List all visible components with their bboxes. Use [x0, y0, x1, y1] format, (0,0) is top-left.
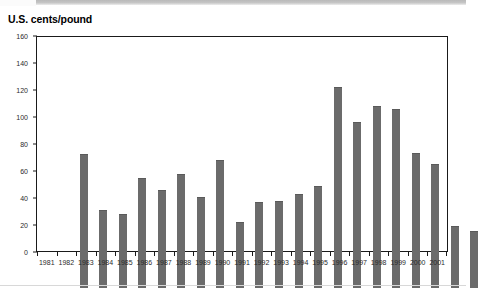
- x-axis-tick-mark: [115, 252, 116, 256]
- x-axis-tick-label: 1991: [234, 258, 250, 267]
- y-axis-tick-label: 100: [16, 114, 28, 121]
- y-axis-tick-label: 40: [20, 195, 28, 202]
- bar: [314, 186, 322, 288]
- bar: [99, 210, 107, 288]
- top-strip-left-segment: [0, 0, 36, 6]
- page-top-strip: [0, 0, 466, 6]
- x-axis-tick-label: 1998: [371, 258, 387, 267]
- x-axis-tick-label: 1987: [156, 258, 172, 267]
- x-axis-tick-label: 1985: [117, 258, 133, 267]
- x-axis-tick-label: 1990: [215, 258, 231, 267]
- x-axis-tick-label: 1988: [176, 258, 192, 267]
- y-axis: 020406080100120140160: [0, 36, 33, 252]
- x-axis-tick-label: 1995: [312, 258, 328, 267]
- plot-area: [36, 36, 448, 252]
- x-axis-tick-mark: [252, 252, 253, 256]
- x-axis-tick-mark: [388, 252, 389, 256]
- x-axis-tick-mark: [193, 252, 194, 256]
- bar: [138, 178, 146, 288]
- x-axis-tick-mark: [57, 252, 58, 256]
- x-axis-tick-mark: [96, 252, 97, 256]
- x-axis-tick-label: 1986: [137, 258, 153, 267]
- x-axis-tick-mark: [330, 252, 331, 256]
- x-axis-tick-mark: [232, 252, 233, 256]
- x-axis-tick-mark: [174, 252, 175, 256]
- chart-title: U.S. cents/pound: [8, 13, 92, 25]
- x-axis-tick-mark: [369, 252, 370, 256]
- x-axis-tick-mark: [446, 252, 447, 256]
- x-axis-tick-label: 1993: [273, 258, 289, 267]
- x-axis-tick-mark: [427, 252, 428, 256]
- x-axis-labels: 1981198219831984198519861987198819891990…: [37, 258, 447, 270]
- x-axis-tick-label: 1983: [78, 258, 94, 267]
- y-axis-tick-label: 160: [16, 33, 28, 40]
- x-axis-tick-label: 1992: [254, 258, 270, 267]
- x-axis-tick-mark: [135, 252, 136, 256]
- x-axis-tick-label: 2000: [410, 258, 426, 267]
- bar: [470, 231, 478, 289]
- top-strip-main-segment: [36, 0, 466, 5]
- x-axis-tick-label: 1994: [293, 258, 309, 267]
- x-axis-tick-mark: [271, 252, 272, 256]
- x-axis-tick-mark: [310, 252, 311, 256]
- bar: [197, 197, 205, 288]
- x-axis-tick-label: 1982: [58, 258, 74, 267]
- y-axis-tick-label: 140: [16, 60, 28, 67]
- x-axis-tick-mark: [76, 252, 77, 256]
- y-axis-tick-label: 60: [20, 168, 28, 175]
- bar: [255, 202, 263, 288]
- bar: [158, 190, 166, 288]
- x-axis-tick-label: 1989: [195, 258, 211, 267]
- x-axis-tick-mark: [154, 252, 155, 256]
- x-axis-tick-mark: [213, 252, 214, 256]
- x-axis-tick-label: 1999: [390, 258, 406, 267]
- x-axis-tick-label: 1997: [351, 258, 367, 267]
- page-bottom-rule: [0, 285, 466, 286]
- bar: [177, 174, 185, 288]
- bar: [295, 194, 303, 288]
- bar: [275, 201, 283, 288]
- x-axis-tick-mark: [349, 252, 350, 256]
- x-axis-tick-mark: [408, 252, 409, 256]
- y-axis-tick-label: 80: [20, 141, 28, 148]
- x-axis-tick-label: 1984: [98, 258, 114, 267]
- x-axis-tick-label: 2001: [429, 258, 445, 267]
- y-axis-tick-label: 20: [20, 222, 28, 229]
- y-axis-tick-label: 0: [24, 249, 28, 256]
- x-axis-tick-mark: [37, 252, 38, 256]
- x-axis-ticks: [37, 252, 447, 256]
- y-axis-tick-label: 120: [16, 87, 28, 94]
- x-axis-tick-label: 1996: [332, 258, 348, 267]
- x-axis-tick-mark: [291, 252, 292, 256]
- bar: [451, 226, 459, 288]
- x-axis-tick-label: 1981: [39, 258, 55, 267]
